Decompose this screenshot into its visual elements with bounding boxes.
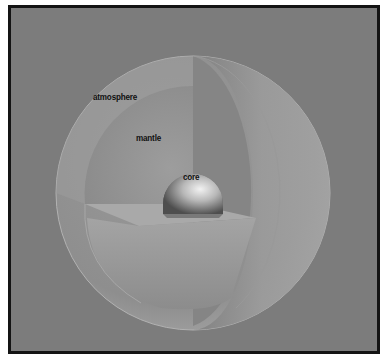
label-core: core bbox=[183, 172, 199, 182]
diagram-frame: atmosphere mantle core bbox=[8, 5, 380, 354]
label-mantle: mantle bbox=[136, 133, 161, 143]
label-atmosphere: atmosphere bbox=[93, 92, 137, 102]
